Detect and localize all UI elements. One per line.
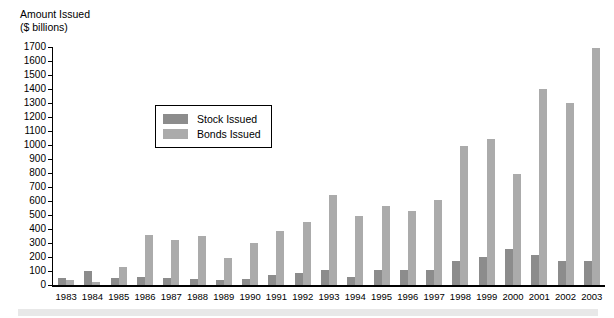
y-tick-label: 0 [40, 280, 46, 290]
x-tick-label: 2001 [529, 291, 550, 302]
legend-item-stock: Stock Issued [163, 112, 261, 126]
bar-bonds [171, 240, 179, 285]
y-tick-label: 500 [29, 210, 46, 220]
x-tick-label: 1990 [240, 291, 261, 302]
bar-bonds [250, 243, 258, 285]
x-tick-label: 1986 [134, 291, 155, 302]
y-tick-label: 1400 [24, 84, 46, 94]
chart-canvas: Amount Issued ($ billions) 0100200300400… [0, 0, 614, 318]
bar-group [426, 47, 442, 285]
y-tick-label: 1700 [24, 42, 46, 52]
x-tick-label: 1992 [292, 291, 313, 302]
y-tick-label: 1000 [24, 140, 46, 150]
bar-group [374, 47, 390, 285]
bar-group [479, 47, 495, 285]
x-tick-label: 1987 [161, 291, 182, 302]
bar-group [347, 47, 363, 285]
x-axis-line [52, 285, 605, 287]
bar-group [531, 47, 547, 285]
x-tick-label: 1999 [476, 291, 497, 302]
bar-group [400, 47, 416, 285]
bar-stock [137, 277, 145, 285]
y-tick-label: 300 [29, 238, 46, 248]
bar-group [190, 47, 206, 285]
x-tick-label: 1988 [187, 291, 208, 302]
bar-bonds [408, 211, 416, 285]
bar-stock [321, 270, 329, 285]
legend-swatch-stock [163, 114, 188, 124]
y-tick-label: 1200 [24, 112, 46, 122]
bar-group [505, 47, 521, 285]
bar-stock [111, 278, 119, 285]
y-axis-title: Amount Issued ($ billions) [20, 8, 90, 34]
bar-bonds [566, 103, 574, 285]
x-tick-label: 1995 [371, 291, 392, 302]
bar-stock [295, 273, 303, 285]
x-tick-label: 2003 [581, 291, 602, 302]
bar-bonds [224, 258, 232, 285]
x-tick-label: 1996 [397, 291, 418, 302]
bar-group [242, 47, 258, 285]
x-tick-label: 1994 [345, 291, 366, 302]
bar-bonds [592, 48, 600, 285]
bar-stock [426, 270, 434, 285]
bar-stock [479, 257, 487, 285]
bar-group [111, 47, 127, 285]
bar-stock [268, 275, 276, 285]
y-axis-title-line-2: ($ billions) [20, 21, 90, 34]
bar-bonds [513, 174, 521, 285]
bar-stock [58, 278, 66, 285]
y-tick-label: 1500 [24, 70, 46, 80]
x-tick-label: 2002 [555, 291, 576, 302]
legend-swatch-bonds [163, 129, 188, 139]
x-tick-label: 1991 [266, 291, 287, 302]
chart-legend: Stock Issued Bonds Issued [155, 105, 272, 148]
bar-stock [190, 279, 198, 285]
bar-group [268, 47, 284, 285]
x-tick-label: 1998 [450, 291, 471, 302]
bar-bonds [434, 200, 442, 285]
x-tick-label: 1997 [424, 291, 445, 302]
x-tick-label: 1993 [318, 291, 339, 302]
legend-item-bonds: Bonds Issued [163, 127, 261, 141]
y-axis-title-line-1: Amount Issued [20, 8, 90, 21]
bar-series-container [53, 47, 605, 285]
bar-stock [558, 261, 566, 286]
y-tick-label: 600 [29, 196, 46, 206]
bar-bonds [329, 195, 337, 285]
x-tick-label: 2000 [502, 291, 523, 302]
legend-label-bonds: Bonds Issued [197, 128, 261, 140]
y-tick-mark [48, 285, 53, 286]
y-tick-label: 1100 [24, 126, 46, 136]
bar-bonds [460, 146, 468, 285]
y-tick-label: 1600 [24, 56, 46, 66]
bar-stock [505, 249, 513, 285]
bar-bonds [382, 206, 390, 285]
bar-bonds [66, 280, 74, 285]
bar-group [558, 47, 574, 285]
bar-bonds [145, 235, 153, 285]
bar-group [216, 47, 232, 285]
bar-bonds [355, 216, 363, 285]
bar-group [321, 47, 337, 285]
bar-bonds [92, 282, 100, 286]
bar-stock [242, 279, 250, 285]
bar-bonds [487, 139, 495, 285]
bar-group [84, 47, 100, 285]
bar-stock [531, 255, 539, 285]
y-tick-label: 200 [29, 252, 46, 262]
bar-group [163, 47, 179, 285]
bar-stock [584, 261, 592, 285]
y-tick-label: 900 [29, 154, 46, 164]
y-tick-label: 100 [29, 266, 46, 276]
bar-bonds [539, 89, 547, 285]
bar-stock [216, 280, 224, 285]
bar-stock [163, 278, 171, 285]
bar-stock [84, 271, 92, 285]
plot-area: 0100200300400500600700800900100011001200… [52, 47, 605, 285]
bar-bonds [276, 231, 284, 285]
x-tick-label: 1985 [108, 291, 129, 302]
bar-stock [374, 270, 382, 285]
bar-bonds [198, 236, 206, 285]
y-tick-label: 1300 [24, 98, 46, 108]
